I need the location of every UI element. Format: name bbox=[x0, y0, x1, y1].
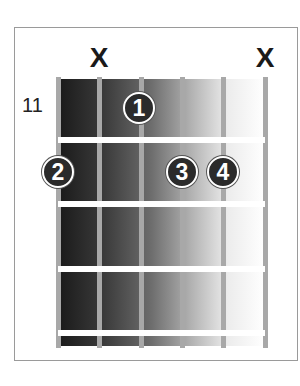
mute-marker-string-6: X bbox=[256, 44, 275, 72]
start-fret-number: 11 bbox=[22, 94, 43, 117]
finger-dot-3: 3 bbox=[166, 156, 198, 188]
string-2 bbox=[97, 77, 102, 348]
finger-dot-2: 2 bbox=[42, 156, 74, 188]
finger-dot-4: 4 bbox=[207, 156, 239, 188]
finger-dot-1: 1 bbox=[123, 92, 155, 124]
string-1 bbox=[56, 77, 61, 348]
string-5 bbox=[221, 77, 226, 348]
string-6 bbox=[263, 77, 268, 348]
fret-line-2 bbox=[58, 201, 265, 207]
fret-line-4 bbox=[58, 330, 265, 336]
fretboard bbox=[58, 79, 265, 346]
mute-marker-string-2: X bbox=[90, 44, 109, 72]
fret-line-3 bbox=[58, 266, 265, 272]
fret-line-1 bbox=[58, 137, 265, 143]
string-4 bbox=[180, 77, 185, 348]
